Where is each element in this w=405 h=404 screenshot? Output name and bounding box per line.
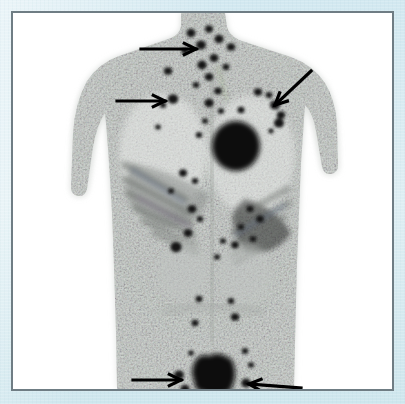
lesion-focus (187, 29, 196, 37)
lesion-focus (192, 320, 199, 326)
lesion-focus (223, 64, 230, 70)
lesion-focus (192, 178, 198, 184)
lesion-focus (238, 107, 245, 113)
lesion-focus (248, 362, 254, 368)
lesion-focus (155, 124, 161, 129)
lesion-focus (184, 229, 193, 237)
lesion-focus (231, 242, 239, 249)
lesion-focus (197, 216, 203, 222)
lesion-focus (250, 236, 257, 242)
lesion-focus (268, 129, 273, 134)
lesion-focus (214, 254, 220, 260)
lesion-focus (202, 118, 208, 124)
lesion-focus (164, 67, 172, 75)
lesion-focus (227, 43, 235, 51)
lesion-focus (196, 296, 203, 302)
lesion-focus (231, 313, 239, 321)
lesion-focus (266, 92, 273, 98)
lesion-focus (220, 238, 226, 244)
focus-mediastinal-mass (212, 121, 260, 171)
lesion-focus (188, 350, 194, 355)
lesion-focus (228, 298, 234, 304)
lesion-focus (218, 108, 224, 114)
focus-bladder (192, 354, 235, 389)
lesion-focus (179, 169, 187, 176)
lesion-focus (205, 25, 213, 32)
lesion-focus (242, 348, 248, 354)
lesion-focus (193, 82, 200, 88)
lesion-focus (214, 87, 222, 94)
lesion-focus (246, 206, 253, 213)
figure-frame (11, 11, 394, 391)
lesion-focus (210, 54, 219, 62)
lesion-focus (168, 94, 178, 104)
lesion-focus (197, 61, 207, 70)
lesion-focus (205, 73, 214, 81)
lesion-focus (254, 88, 262, 96)
lesion-focus (196, 132, 202, 138)
lesion-focus (214, 35, 223, 43)
lesion-focus (188, 205, 197, 213)
lesion-focus (238, 224, 244, 230)
whole-body-scan-svg (13, 13, 392, 389)
lesion-focus (256, 215, 264, 222)
lesion-focus (204, 99, 213, 108)
lesion-focus (168, 188, 174, 194)
scan-image (13, 13, 392, 389)
lesion-focus (277, 111, 285, 119)
lesion-focus (170, 242, 181, 252)
lesion-focus (274, 118, 284, 127)
